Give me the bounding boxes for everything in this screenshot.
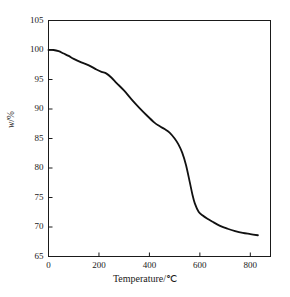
y-tick-label: 85 xyxy=(18,133,44,143)
y-axis-title: w/% xyxy=(6,111,16,128)
x-tick-label: 400 xyxy=(129,260,169,270)
y-axis-title-symbol: w xyxy=(6,122,16,128)
x-axis-title-text: Temperature/℃ xyxy=(113,273,177,284)
y-tick-label: 100 xyxy=(18,44,44,54)
y-tick-label: 75 xyxy=(18,192,44,202)
x-tick-label: 0 xyxy=(29,260,69,270)
x-tick-label: 200 xyxy=(79,260,119,270)
y-axis-title-unit: /% xyxy=(6,111,16,122)
y-tick-label: 90 xyxy=(18,103,44,113)
y-tick-label: 105 xyxy=(18,15,44,25)
y-tick-label: 95 xyxy=(18,74,44,84)
y-tick-label: 70 xyxy=(18,221,44,231)
x-axis-title: Temperature/℃ xyxy=(0,273,290,284)
y-tick-label: 80 xyxy=(18,162,44,172)
x-tick-label: 600 xyxy=(180,260,220,270)
x-tick-label: 800 xyxy=(230,260,270,270)
